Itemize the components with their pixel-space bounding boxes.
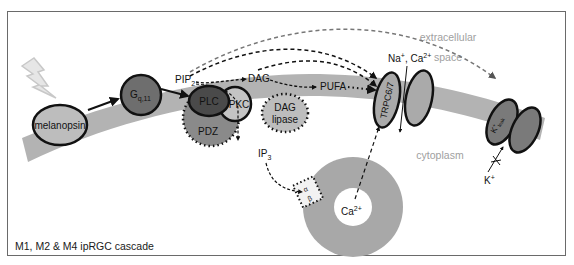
light-bolt-icon	[22, 58, 56, 98]
ipRGC-cascade-diagram: extracellular space cytoplasm Ca2+ α β m…	[0, 0, 574, 265]
na-ca-ion-label: Na+, Ca2+	[388, 52, 431, 64]
pdz-label: PDZ	[198, 126, 218, 137]
pkc-label: PKC	[229, 99, 250, 110]
dag-label: DAG	[248, 73, 270, 84]
pip2-label: PIP2	[175, 74, 195, 87]
pufa-label: PUFA	[320, 81, 346, 92]
cytoplasm-label: cytoplasm	[416, 149, 464, 161]
dag-lipase-label-2: lipase	[272, 114, 299, 125]
dag-lipase	[262, 94, 308, 132]
plc-label: PLC	[199, 96, 218, 107]
melanopsin-label: melanopsin	[34, 120, 85, 131]
figure-caption: M1, M2 & M4 ipRGC cascade	[15, 240, 154, 252]
ip3-label: IP3	[258, 148, 271, 161]
k-ion-label: K+	[484, 174, 495, 186]
pip2-to-trpc-arrow-1	[190, 49, 376, 78]
space-label: space	[434, 51, 462, 63]
dag-lipase-label-1: DAG	[274, 102, 296, 113]
extracellular-label: extracellular	[420, 31, 477, 43]
